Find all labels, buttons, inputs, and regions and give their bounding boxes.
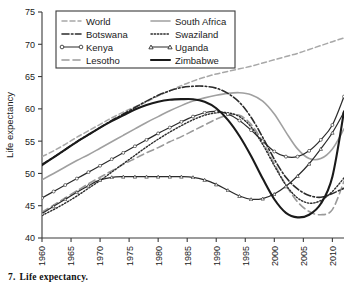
figure-life-expectancy: 4045505560657075 19601965197019751980198… (0, 0, 349, 293)
x-tick-label: 1960 (37, 246, 47, 266)
legend-label-zimbabwe: Zimbabwe (175, 55, 219, 66)
series-line-botswana (42, 86, 344, 197)
series-line-swaziland (42, 112, 344, 215)
y-tick-label: 70 (25, 40, 35, 50)
y-tick-label: 45 (25, 201, 35, 211)
legend-label-world: World (86, 16, 111, 27)
line-chart: 4045505560657075 19601965197019751980198… (0, 0, 349, 268)
x-tick-label: 1990 (212, 246, 222, 266)
series-line-lesotho (42, 114, 344, 214)
legend-label-lesotho: Lesotho (86, 55, 120, 66)
x-tick-label: 1980 (154, 246, 164, 266)
y-tick-label: 75 (25, 7, 35, 17)
legend-label-uganda: Uganda (175, 42, 209, 53)
caption-number: 7. (8, 272, 16, 282)
y-axis-title: Life expectancy (4, 92, 15, 158)
legend-label-swaziland: Swaziland (175, 29, 218, 40)
y-axis-ticks: 4045505560657075 (25, 7, 42, 243)
y-tick-label: 60 (25, 104, 35, 114)
y-tick-label: 65 (25, 72, 35, 82)
legend-label-kenya: Kenya (86, 42, 114, 53)
x-tick-label: 2010 (328, 246, 338, 266)
legend-box: WorldSouth AfricaBotswanaSwazilandKenyaU… (56, 11, 235, 68)
x-tick-label: 2005 (299, 246, 309, 266)
x-tick-label: 1995 (241, 246, 251, 266)
x-tick-label: 2000 (270, 246, 280, 266)
y-tick-label: 40 (25, 233, 35, 243)
caption-text: Life expectancy. (20, 272, 89, 282)
figure-caption: 7.Life expectancy. (8, 272, 338, 282)
y-tick-label: 55 (25, 137, 35, 147)
legend-label-south-africa: South Africa (175, 16, 227, 27)
y-tick-label: 50 (25, 169, 35, 179)
x-tick-label: 1970 (95, 246, 105, 266)
legend-label-botswana: Botswana (86, 29, 128, 40)
x-tick-label: 1985 (183, 246, 193, 266)
series-line-kenya (42, 97, 344, 198)
x-axis-ticks: 1960196519701975198019851990199520002005… (37, 238, 337, 266)
x-tick-label: 1965 (66, 246, 76, 266)
x-tick-label: 1975 (125, 246, 135, 266)
